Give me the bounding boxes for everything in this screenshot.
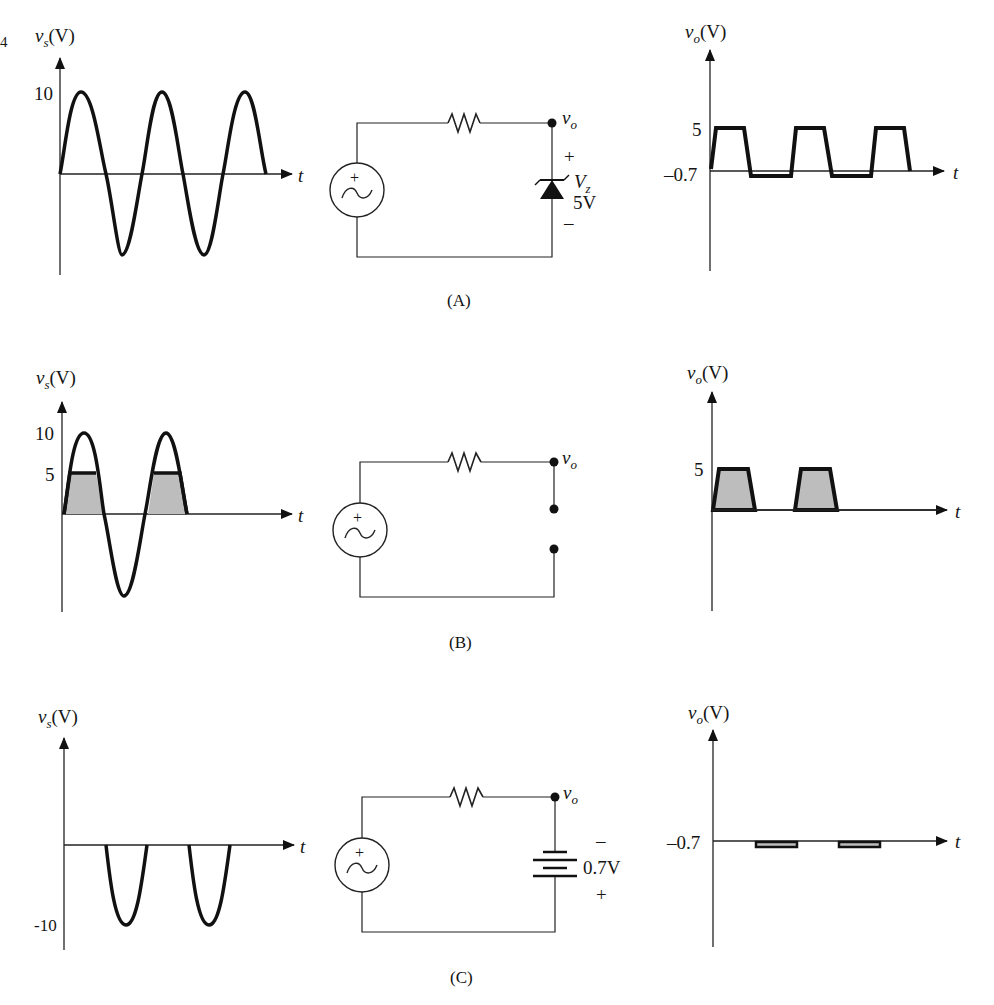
panel-b-input-ylabel: vs(V) bbox=[36, 368, 76, 387]
figure-canvas bbox=[0, 0, 994, 1005]
source-plus: + bbox=[350, 170, 359, 186]
panel-c-node-label: vo bbox=[563, 783, 578, 802]
output-node-dot bbox=[550, 458, 559, 467]
source-plus: + bbox=[353, 510, 362, 526]
var: V bbox=[574, 171, 586, 192]
panel-a-output-ylabel: vo(V) bbox=[685, 22, 726, 41]
tick-minus-10: -10 bbox=[34, 917, 57, 934]
unit: (V) bbox=[52, 706, 78, 727]
sub: o bbox=[693, 31, 700, 46]
sub: o bbox=[570, 457, 577, 472]
panel-b-node-label: vo bbox=[562, 448, 577, 467]
tick-10: 10 bbox=[34, 84, 53, 103]
sub: s bbox=[46, 716, 51, 731]
sub: o bbox=[696, 712, 703, 727]
vs-negative-half-2 bbox=[189, 845, 230, 925]
sub: o bbox=[695, 372, 702, 387]
panel-c-input-graph bbox=[64, 738, 294, 950]
sub: o bbox=[570, 117, 577, 132]
vs-negative-half-1 bbox=[106, 845, 147, 925]
vo-pulse-2 bbox=[795, 469, 837, 510]
vo-clipped-wave bbox=[711, 128, 910, 176]
sub: s bbox=[43, 35, 48, 50]
zener-plus: + bbox=[564, 147, 575, 166]
panel-b-circuit bbox=[333, 453, 559, 597]
source-plus: + bbox=[355, 845, 364, 861]
panel-a-input-graph bbox=[60, 58, 292, 275]
sub: o bbox=[571, 792, 578, 807]
panel-c-input-ylabel: vs(V) bbox=[38, 707, 78, 726]
open-terminal-top bbox=[550, 505, 559, 514]
panel-c-output-ylabel: vo(V) bbox=[688, 703, 729, 722]
zener-label: Vz bbox=[574, 172, 591, 191]
t-label: t bbox=[298, 166, 303, 185]
unit: (V) bbox=[50, 367, 76, 388]
tick-5: 5 bbox=[692, 120, 702, 139]
zener-value: 5V bbox=[573, 193, 596, 212]
t-label: t bbox=[953, 163, 958, 182]
panel-a-input-ylabel: vs(V) bbox=[35, 26, 75, 45]
battery-minus: – bbox=[596, 831, 606, 850]
unit: (V) bbox=[703, 702, 729, 723]
tick-5: 5 bbox=[45, 465, 55, 484]
panel-c-output-graph bbox=[713, 730, 947, 947]
caption-a: (A) bbox=[447, 291, 471, 311]
unit: (V) bbox=[700, 21, 726, 42]
battery-value: 0.7V bbox=[583, 858, 620, 877]
vo-pulse-1 bbox=[756, 842, 797, 847]
panel-b-input-graph bbox=[62, 402, 292, 612]
vo-pulse-2 bbox=[839, 842, 880, 847]
unit: (V) bbox=[49, 25, 75, 46]
figure-number: 4 bbox=[0, 35, 8, 50]
tick-5: 5 bbox=[694, 460, 704, 479]
tick-minus-0.7: –0.7 bbox=[664, 165, 697, 184]
sub: s bbox=[44, 377, 49, 392]
battery-plus: + bbox=[596, 885, 607, 904]
panel-a-circuit bbox=[330, 114, 569, 257]
vo-pulse-1 bbox=[713, 469, 755, 510]
caption-c: (C) bbox=[450, 968, 473, 988]
t-label: t bbox=[300, 837, 305, 856]
open-terminal-bottom bbox=[550, 545, 559, 554]
unit: (V) bbox=[702, 362, 728, 383]
resistor-icon bbox=[450, 788, 483, 806]
panel-b-output-graph bbox=[712, 392, 947, 611]
resistor-icon bbox=[448, 114, 480, 132]
t-label: t bbox=[955, 832, 960, 851]
tick-10: 10 bbox=[35, 424, 54, 443]
t-label: t bbox=[298, 506, 303, 525]
tick-minus-0.7: –0.7 bbox=[667, 833, 700, 852]
caption-b: (B) bbox=[449, 633, 472, 653]
zener-minus: – bbox=[564, 213, 574, 232]
panel-b-output-ylabel: vo(V) bbox=[687, 363, 728, 382]
panel-a-node-label: vo bbox=[562, 108, 577, 127]
output-node-dot bbox=[548, 119, 557, 128]
panel-c-circuit bbox=[335, 788, 577, 932]
panel-a-output-graph bbox=[710, 50, 944, 271]
t-label: t bbox=[955, 502, 960, 521]
resistor-icon bbox=[448, 453, 481, 471]
output-node-dot bbox=[551, 793, 560, 802]
battery-icon bbox=[533, 852, 577, 876]
